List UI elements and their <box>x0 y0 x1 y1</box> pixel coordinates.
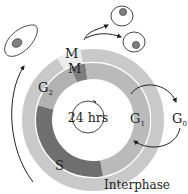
parent-cell-icon <box>5 25 38 56</box>
outer-mitosis-label: M <box>65 46 78 61</box>
daughter-cell-upper-icon <box>111 6 133 26</box>
phase-label-g0: G0 <box>172 111 187 128</box>
daughter-cell-lower-icon <box>123 32 145 52</box>
division-arrow-lower-icon <box>86 34 121 38</box>
interphase-label: Interphase <box>104 178 170 192</box>
phase-label-m: M <box>68 61 81 76</box>
phase-label-s: S <box>55 158 64 173</box>
center-duration-label: 24 hrs <box>68 110 108 125</box>
cell-cycle-diagram: M M G2 G1 S G0 24 hrs Interphase <box>0 0 188 194</box>
